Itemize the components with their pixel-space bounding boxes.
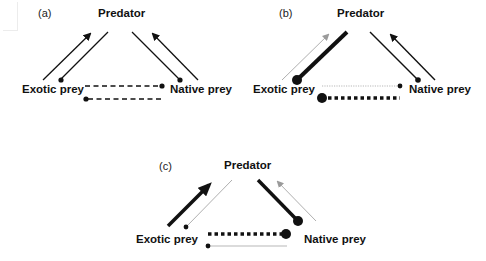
panel-a-exotic-prey-label: Exotic prey: [22, 83, 84, 95]
panel-b-label: (b): [279, 7, 292, 19]
arrow-native-to-predator: [391, 35, 435, 80]
arrow-exotic-to-predator: [168, 185, 209, 226]
arrow-native-to-predator: [278, 182, 316, 221]
panel-a-label: (a): [38, 7, 51, 19]
dot-head: [159, 83, 164, 88]
dot-head-large: [317, 93, 327, 103]
panel-b-exotic-prey-label: Exotic prey: [253, 83, 315, 95]
panel-a-predator-label: Predator: [98, 7, 145, 19]
panel-c-predator-label: Predator: [224, 159, 271, 171]
effect-predator-on-exotic: [188, 180, 232, 225]
dot-head-large: [281, 229, 291, 239]
panel-c-exotic-prey-label: Exotic prey: [136, 233, 198, 245]
food-web-diagram: [0, 0, 486, 261]
effect-predator-on-native: [258, 180, 296, 219]
arrow-native-to-predator: [153, 34, 198, 80]
effect-predator-on-exotic: [299, 32, 347, 78]
dot-head: [184, 225, 189, 230]
dot-head: [177, 77, 182, 82]
panel-c-label: (c): [159, 160, 172, 172]
dot-head: [83, 96, 88, 101]
dot-head: [415, 77, 421, 83]
effect-predator-on-native: [132, 32, 179, 79]
panel-a-native-prey-label: Native prey: [170, 83, 232, 95]
dot-head: [206, 244, 211, 249]
dot-head: [58, 77, 63, 82]
panel-c-native-prey-label: Native prey: [304, 233, 366, 245]
panel-b-predator-label: Predator: [337, 7, 384, 19]
panel-b-native-prey-label: Native prey: [409, 83, 471, 95]
dot-head-large: [293, 216, 303, 226]
effect-predator-on-native: [370, 32, 417, 79]
dot-head: [398, 84, 403, 89]
